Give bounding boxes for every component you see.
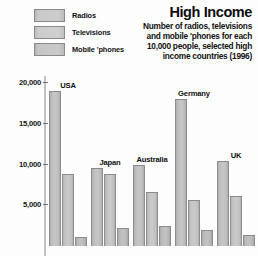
chart-plot-area: 20,00015,00010,0005,000 USAJapanAustrali…	[0, 62, 258, 256]
bar-group-label-japan: Japan	[90, 158, 130, 167]
y-axis-tick-label: 20,000	[19, 78, 41, 87]
legend-item-radios: Radios	[34, 8, 138, 23]
bar-group-label-australia: Australia	[132, 155, 172, 164]
bar-usa-radios	[49, 91, 61, 246]
bar-japan-televisions	[104, 174, 116, 246]
chart-title: High Income	[130, 4, 252, 20]
legend-item-mobile-phones: Mobile 'phones	[34, 42, 138, 57]
bar-groups: USAJapanAustraliaGermanyUK	[46, 62, 258, 256]
legend-swatch-mobile-phones-icon	[34, 43, 65, 56]
bar-group-label-germany: Germany	[174, 89, 214, 98]
chart-subtitle-line-2: and mobile 'phones for each	[130, 31, 252, 41]
chart-page: Radios Televisions Mobile 'phones High I…	[0, 0, 258, 256]
bar-group-uk: UK	[216, 62, 256, 256]
bar-group-label-uk: UK	[216, 151, 256, 160]
bar-uk-televisions	[230, 196, 242, 246]
bar-australia-mobile-phones	[159, 226, 171, 246]
bar-group-usa: USA	[48, 62, 88, 256]
y-axis-tick-5000: 5,000	[4, 200, 48, 209]
bar-australia-televisions	[146, 192, 158, 246]
bar-uk-mobile-phones	[243, 235, 255, 246]
bar-group-japan: Japan	[90, 62, 130, 256]
chart-legend: Radios Televisions Mobile 'phones	[34, 8, 138, 59]
bar-group-germany: Germany	[174, 62, 214, 256]
chart-subtitle-line-4: income countries (1996)	[130, 51, 252, 61]
chart-subtitle: Number of radios, televisions and mobile…	[130, 21, 252, 61]
chart-subtitle-line-1: Number of radios, televisions	[130, 21, 252, 31]
y-axis-tick-label: 5,000	[23, 200, 41, 209]
y-axis-tick-label: 15,000	[19, 119, 41, 128]
y-axis-tick-20000: 20,000	[4, 78, 48, 87]
bar-germany-radios	[175, 99, 187, 246]
bar-australia-radios	[133, 165, 145, 246]
bar-usa-mobile-phones	[75, 237, 87, 246]
y-axis-tick-label: 10,000	[19, 160, 41, 169]
y-axis-tick-10000: 10,000	[4, 160, 48, 169]
bar-group-label-usa: USA	[48, 81, 88, 90]
bar-group-australia: Australia	[132, 62, 172, 256]
title-block: High Income Number of radios, television…	[130, 4, 252, 61]
bar-germany-televisions	[188, 200, 200, 246]
bar-germany-mobile-phones	[201, 230, 213, 246]
bar-japan-radios	[91, 168, 103, 246]
legend-swatch-televisions-icon	[34, 26, 65, 39]
legend-label-mobile-phones: Mobile 'phones	[72, 45, 124, 54]
y-axis-tick-15000: 15,000	[4, 119, 48, 128]
legend-label-televisions: Televisions	[72, 28, 111, 37]
chart-subtitle-line-3: 10,000 people, selected high	[130, 41, 252, 51]
bar-uk-radios	[217, 161, 229, 246]
bar-japan-mobile-phones	[117, 228, 129, 246]
legend-item-televisions: Televisions	[34, 25, 138, 40]
legend-label-radios: Radios	[72, 11, 96, 20]
legend-swatch-radios-icon	[34, 9, 65, 22]
chart-header: Radios Televisions Mobile 'phones High I…	[0, 0, 258, 62]
bar-usa-televisions	[62, 174, 74, 246]
